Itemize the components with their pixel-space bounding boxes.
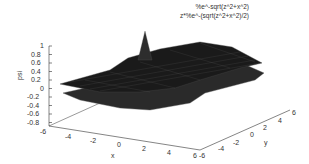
x-tick: -6	[40, 128, 46, 135]
y-tick: 6	[292, 109, 296, 116]
x-tick: 2	[142, 145, 146, 152]
plot-canvas	[0, 0, 309, 164]
z-tick: -0.6	[27, 110, 39, 117]
y-tick: 2	[263, 124, 267, 131]
x-tick: 4	[167, 149, 171, 156]
y-tick: -4	[218, 145, 224, 152]
z-tick: 0.4	[31, 68, 41, 75]
x-tick: 0	[117, 141, 121, 148]
x-tick: -4	[65, 133, 71, 140]
z-tick: 1	[40, 42, 44, 49]
y-tick: -6	[199, 152, 205, 159]
z-tick: 0.2	[31, 76, 41, 83]
y-tick: 4	[278, 117, 282, 124]
z-tick: -0.8	[27, 119, 39, 126]
z-tick: 0.6	[31, 59, 41, 66]
z-tick: -0.2	[27, 93, 39, 100]
x-axis-label: x	[111, 152, 115, 159]
legend-entry-1: %e^-sqrt(z^2+x^2)	[196, 3, 249, 10]
surface-plot: %e^-sqrt(z^2+x^2) z*%e^-(sqrt(z^2+x^2)/2…	[0, 0, 309, 164]
y-tick: -2	[233, 139, 239, 146]
y-axis-label: y	[264, 139, 268, 146]
y-tick: 0	[250, 131, 254, 138]
z-tick: 0.8	[31, 51, 41, 58]
x-tick: 6	[193, 152, 197, 159]
x-tick: -2	[90, 137, 96, 144]
z-tick: -0.4	[27, 102, 39, 109]
legend-entry-2: z*%e^-(sqrt(z^2+x^2)/2)	[180, 12, 249, 19]
z-axis-label: psi	[16, 71, 23, 80]
z-tick: 0	[40, 85, 44, 92]
